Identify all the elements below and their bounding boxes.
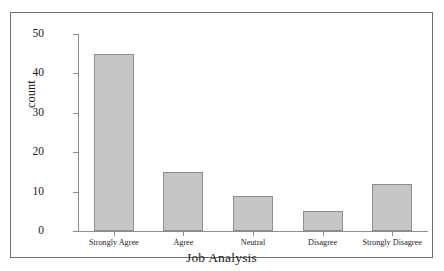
y-axis-tick-label: 20 bbox=[4, 146, 44, 158]
x-axis-tick-label: Neutral bbox=[241, 239, 266, 247]
y-axis-tick-label: 0 bbox=[4, 225, 44, 237]
x-axis-tick-label: Strongly Agree bbox=[89, 239, 139, 247]
y-axis-tick bbox=[73, 152, 78, 153]
x-axis-tick-label: Agree bbox=[173, 239, 193, 247]
bar bbox=[233, 196, 273, 231]
y-axis-tick-label: 40 bbox=[4, 68, 44, 80]
bar bbox=[372, 184, 412, 231]
x-axis-title: Job Analysis bbox=[11, 250, 432, 266]
x-axis-tick bbox=[253, 232, 254, 236]
bar bbox=[303, 211, 343, 231]
y-axis-tick bbox=[73, 192, 78, 193]
y-axis-title: count bbox=[24, 80, 39, 108]
x-axis-tick bbox=[114, 232, 115, 236]
x-axis-tick bbox=[323, 232, 324, 236]
x-axis-tick bbox=[392, 232, 393, 236]
plot-area bbox=[79, 34, 427, 231]
x-axis-tick-label: Strongly Disagree bbox=[363, 239, 422, 247]
x-axis-tick-label: Disagree bbox=[308, 239, 337, 247]
y-axis-tick bbox=[73, 34, 78, 35]
y-axis-tick bbox=[73, 113, 78, 114]
bar bbox=[163, 172, 203, 231]
x-axis-tick bbox=[183, 232, 184, 236]
bar bbox=[94, 54, 134, 231]
y-axis-tick-label: 50 bbox=[4, 28, 44, 40]
y-axis-tick bbox=[73, 73, 78, 74]
y-axis-tick-label: 10 bbox=[4, 186, 44, 198]
y-axis-tick-label: 30 bbox=[4, 107, 44, 119]
y-axis-tick bbox=[73, 231, 78, 232]
chart-figure-frame: 01020304050 Strongly AgreeAgreeNeutralDi… bbox=[10, 12, 433, 258]
